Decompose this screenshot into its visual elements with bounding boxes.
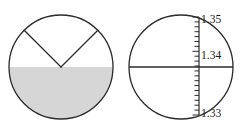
scale-label-bottom: 1.33: [201, 107, 221, 119]
scale-label-top: 1.35: [201, 13, 221, 25]
wedge-right-arm: [61, 30, 98, 67]
left-circle-diagram: [9, 15, 113, 119]
shaded-lower-half: [9, 67, 113, 119]
scale-tick-group: [193, 17, 200, 115]
scale-label-middle: 1.34: [201, 49, 221, 61]
figure-canvas: 1.35 1.34 1.33: [0, 0, 243, 128]
right-circle-diagram: 1.35 1.34 1.33: [129, 13, 233, 119]
figure-container: 1.35 1.34 1.33: [0, 0, 243, 128]
wedge-left-arm: [24, 30, 61, 67]
